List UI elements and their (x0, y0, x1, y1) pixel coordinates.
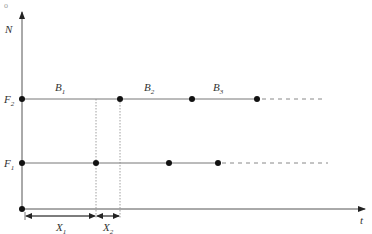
f1-dot-3 (215, 160, 221, 166)
x-axis-label: t (360, 214, 364, 226)
f1-dot-2 (166, 160, 172, 166)
f2-dot-3 (254, 96, 260, 102)
f2-label: F2 (3, 93, 15, 108)
f2-origin-dot (19, 96, 25, 102)
interval-x1-label: X1 (55, 221, 66, 234)
interval-x2-label: X2 (102, 221, 114, 234)
corner-mark: o (4, 1, 8, 10)
f2-dot-1 (117, 96, 123, 102)
origin-dot (19, 206, 25, 212)
segment-b1-label: B1 (55, 81, 65, 96)
f2-dot-2 (189, 96, 195, 102)
segment-b2-label: B2 (144, 81, 155, 96)
f1-origin-dot (19, 160, 25, 166)
f1-dot-1 (93, 160, 99, 166)
y-axis-label: N (4, 23, 13, 35)
diagram-canvas: o N t F2 F1 B1 B2 B3 X1 X2 (0, 0, 372, 234)
f1-label: F1 (3, 157, 14, 172)
segment-b3-label: B3 (213, 81, 224, 96)
